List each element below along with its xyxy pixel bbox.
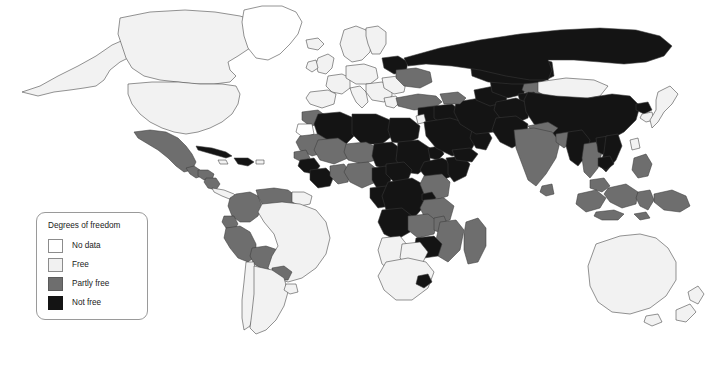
country-cuba xyxy=(196,146,232,158)
country-java xyxy=(594,210,624,220)
country-germany-poland xyxy=(346,64,378,84)
country-tunisia-libya xyxy=(352,114,392,144)
legend-label-no-data: No data xyxy=(72,241,101,251)
country-greenland xyxy=(242,6,302,60)
country-italy xyxy=(350,86,368,108)
legend-label-partly-free: Partly free xyxy=(72,279,109,289)
country-caucasus xyxy=(440,92,466,104)
country-timor xyxy=(634,212,650,220)
country-ireland xyxy=(306,60,318,72)
country-australia xyxy=(588,234,676,314)
country-sumatra xyxy=(576,190,606,212)
legend-swatch-free xyxy=(48,258,63,272)
country-borneo xyxy=(604,184,638,208)
country-taiwan xyxy=(630,138,640,150)
country-new-zealand-south xyxy=(676,304,696,322)
country-angola xyxy=(378,208,412,240)
legend-label-not-free: Not free xyxy=(72,298,101,308)
legend-item-no-data: No data xyxy=(46,237,139,255)
legend-item-not-free: Not free xyxy=(46,294,139,312)
legend-item-partly-free: Partly free xyxy=(46,275,139,293)
country-papua-new-guinea xyxy=(654,190,690,212)
country-sri-lanka xyxy=(540,184,554,196)
country-madagascar xyxy=(464,218,486,264)
country-haiti-dominican xyxy=(234,158,254,166)
country-sulawesi xyxy=(636,190,654,210)
country-russia xyxy=(404,28,672,80)
country-mexico xyxy=(134,130,196,172)
country-puerto-rico xyxy=(256,160,264,164)
country-united-kingdom xyxy=(316,54,334,74)
country-tasmania xyxy=(644,314,662,326)
country-mozambique xyxy=(436,220,464,262)
legend-label-free: Free xyxy=(72,260,89,270)
legend-swatch-not-free xyxy=(48,296,63,310)
country-new-zealand xyxy=(688,286,704,304)
country-spain-portugal xyxy=(306,90,336,108)
country-yemen xyxy=(452,148,478,162)
world-map-figure: Degrees of freedom No data Free Partly f… xyxy=(0,0,712,376)
map-legend: Degrees of freedom No data Free Partly f… xyxy=(36,212,148,320)
legend-item-free: Free xyxy=(46,256,139,274)
country-japan xyxy=(650,86,678,128)
country-united-states xyxy=(128,82,240,134)
country-iceland xyxy=(306,38,324,50)
country-india xyxy=(514,128,560,186)
legend-swatch-partly-free xyxy=(48,277,63,291)
legend-swatch-no-data xyxy=(48,239,63,253)
country-philippines xyxy=(632,154,652,178)
legend-title: Degrees of freedom xyxy=(48,221,139,231)
country-jamaica xyxy=(218,160,228,164)
